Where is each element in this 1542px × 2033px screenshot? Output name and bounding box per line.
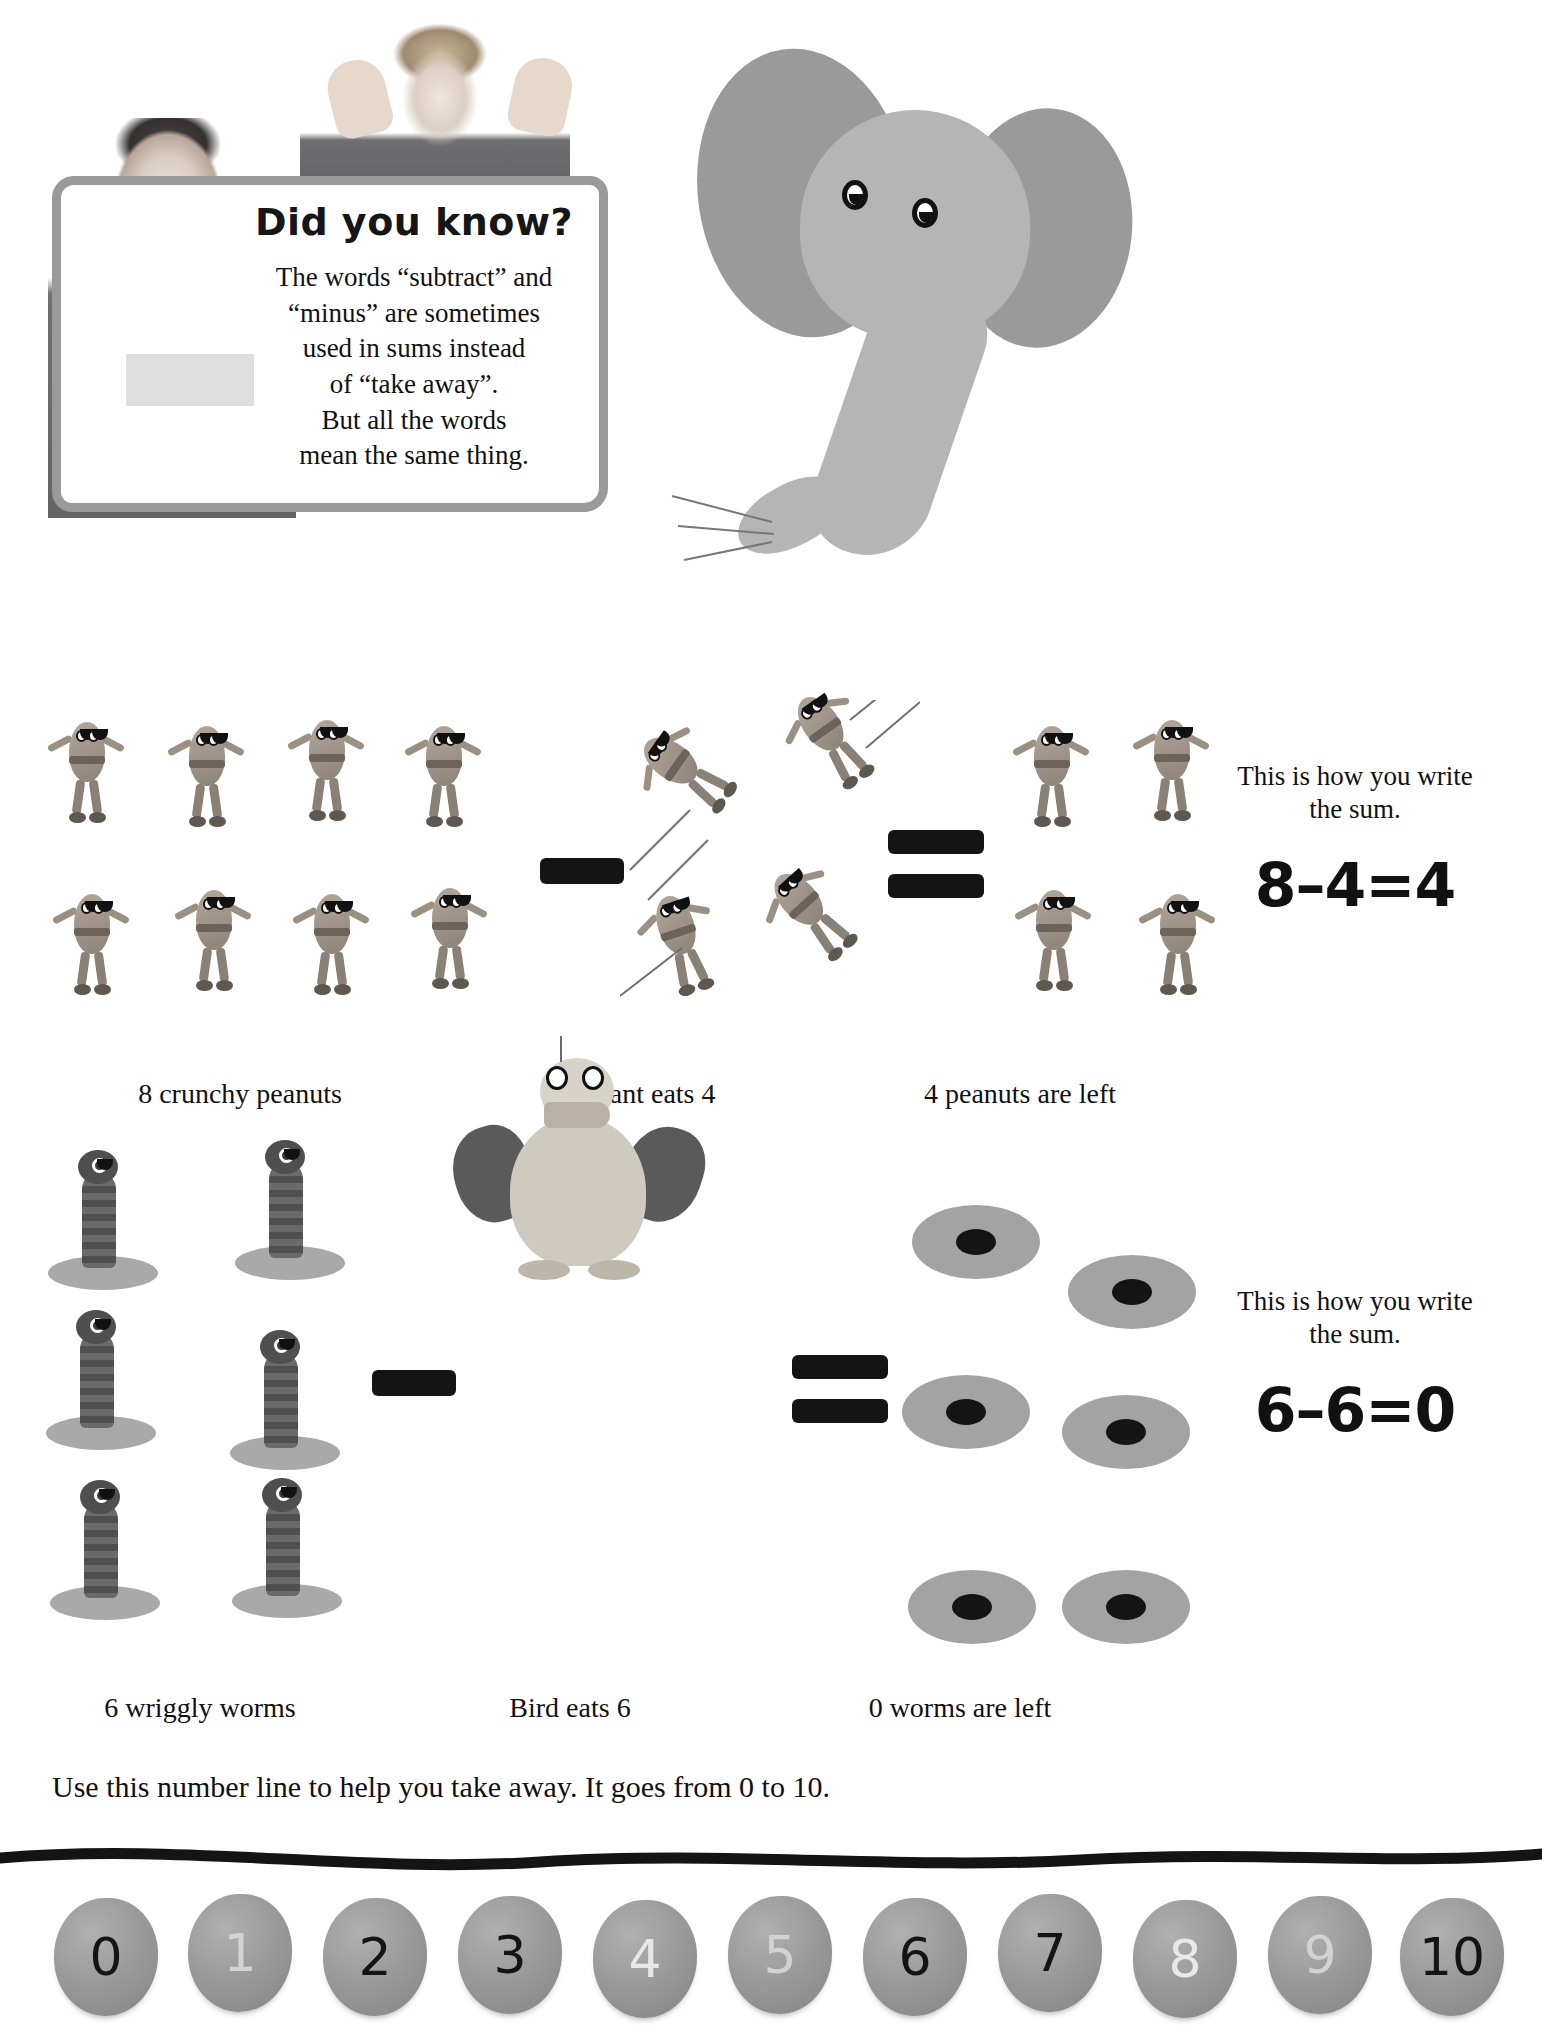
worm-figure	[232, 1478, 342, 1618]
number-stones: 0 1 2 3 4 5 6 7 8 9 10	[40, 1892, 1520, 2022]
empty-plate	[1062, 1570, 1190, 1644]
bird-illustration	[448, 1030, 708, 1320]
stone-label: 7	[1033, 1923, 1066, 1983]
caption-worms-right: 0 worms are left	[770, 1692, 1150, 1724]
number-stone[interactable]: 9	[1268, 1896, 1372, 2014]
number-stone[interactable]: 5	[728, 1896, 832, 2014]
worm-figure	[235, 1140, 345, 1280]
number-stone[interactable]: 6	[863, 1898, 967, 2016]
worm-figure	[46, 1310, 156, 1450]
bird-body	[510, 1116, 646, 1266]
stone-label: 8	[1168, 1929, 1201, 1989]
sum-note-worms: This is how you write the sum.	[1235, 1285, 1475, 1351]
stone-label: 5	[763, 1925, 796, 1985]
number-stone[interactable]: 1	[188, 1894, 292, 2012]
worm-figure	[230, 1330, 340, 1470]
bird-foot-right	[588, 1260, 640, 1280]
stone-label: 9	[1303, 1925, 1336, 1985]
number-stone[interactable]: 4	[593, 1900, 697, 2018]
stone-label: 4	[628, 1929, 661, 1989]
minus-operator-icon	[372, 1370, 456, 1396]
empty-plate	[912, 1205, 1040, 1279]
workbook-page: Did you know? The words “subtract” and “…	[0, 0, 1542, 2033]
caption-worms-left: 6 wriggly worms	[20, 1692, 380, 1724]
bird-foot-left	[518, 1260, 570, 1280]
empty-plate	[1068, 1255, 1196, 1329]
section-worms: This is how you write the sum. 6–6=0 6 w…	[0, 0, 1542, 1760]
empty-plate	[902, 1375, 1030, 1449]
number-stone[interactable]: 0	[54, 1898, 158, 2016]
bird-eye-left	[546, 1066, 568, 1090]
equals-operator-icon	[792, 1355, 888, 1425]
worm-figure	[48, 1150, 158, 1290]
bird-tuft	[560, 1036, 562, 1062]
bird-beak	[544, 1102, 610, 1128]
caption-worms-middle: Bird eats 6	[380, 1692, 760, 1724]
number-stone[interactable]: 2	[323, 1898, 427, 2016]
number-line: 0 1 2 3 4 5 6 7 8 9 10	[0, 1840, 1542, 2033]
empty-plate	[908, 1570, 1036, 1644]
number-stone[interactable]: 7	[998, 1894, 1102, 2012]
number-line-instruction: Use this number line to help you take aw…	[52, 1770, 830, 1804]
number-stone[interactable]: 8	[1133, 1900, 1237, 2018]
number-stone[interactable]: 10	[1400, 1898, 1504, 2016]
stone-label: 1	[223, 1923, 256, 1983]
stone-label: 10	[1419, 1927, 1485, 1987]
equation-worms: 6–6=0	[1230, 1375, 1480, 1445]
stone-label: 3	[493, 1925, 526, 1985]
empty-plate	[1062, 1395, 1190, 1469]
worm-figure	[50, 1480, 160, 1620]
number-stone[interactable]: 3	[458, 1896, 562, 2014]
stone-label: 6	[898, 1927, 931, 1987]
stone-label: 0	[89, 1927, 122, 1987]
bird-eye-right	[582, 1066, 604, 1090]
number-line-band	[0, 1840, 1542, 1874]
stone-label: 2	[358, 1927, 391, 1987]
